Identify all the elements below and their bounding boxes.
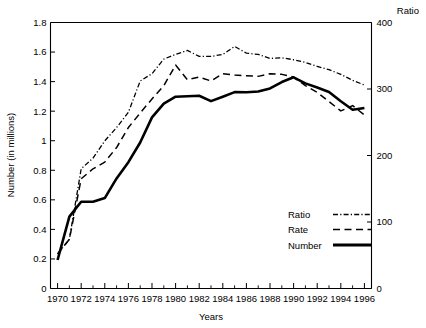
series-line-rate <box>58 65 365 254</box>
y-axis-right-tick-labels: 0100200300400 <box>377 17 393 294</box>
y-axis-right-tick-label: 100 <box>377 216 393 227</box>
legend-label-ratio: Ratio <box>288 209 310 220</box>
y-axis-right-tick-label: 300 <box>377 83 393 94</box>
y-axis-left-ticks <box>51 23 56 289</box>
legend-label-number: Number <box>288 240 322 251</box>
x-axis-tick-label: 1970 <box>47 293 68 304</box>
y-axis-left-tick-label: 0.2 <box>33 253 46 264</box>
x-axis-title: Years <box>199 311 223 322</box>
x-axis-tick-label: 1976 <box>118 293 139 304</box>
x-axis-tick-label: 1996 <box>354 293 375 304</box>
y-axis-right-tick-label: 400 <box>377 17 393 28</box>
x-axis-tick-label: 1980 <box>165 293 186 304</box>
y-axis-right-tick-label: 200 <box>377 150 393 161</box>
data-series-group <box>58 46 365 260</box>
x-axis-tick-label: 1988 <box>259 293 280 304</box>
chart-figure: 00.20.40.60.811.21.41.61.8 0100200300400… <box>0 0 426 328</box>
y-axis-left-tick-label: 0.6 <box>33 194 46 205</box>
y-axis-left-tick-label: 1.4 <box>33 76 46 87</box>
x-axis-tick-label: 1992 <box>307 293 328 304</box>
chart-legend: Ratio Rate Number <box>288 209 372 251</box>
x-axis-tick-label: 1990 <box>283 293 304 304</box>
y-axis-right-ticks <box>367 23 372 289</box>
y-axis-right-title: Ratio <box>397 5 419 16</box>
x-axis-tick-label: 1978 <box>141 293 162 304</box>
x-axis-tick-labels: 1970197219741976197819801982198419861988… <box>47 293 375 304</box>
y-axis-right-tick-label: 0 <box>377 283 382 294</box>
x-axis-tick-label: 1982 <box>189 293 210 304</box>
plot-frame <box>51 23 372 289</box>
series-line-ratio <box>58 46 365 253</box>
x-axis-tick-label: 1994 <box>330 293 351 304</box>
y-axis-left-tick-label: 1.8 <box>33 17 46 28</box>
series-line-number <box>58 77 365 260</box>
x-axis-tick-label: 1972 <box>71 293 92 304</box>
y-axis-left-tick-labels: 00.20.40.60.811.21.41.61.8 <box>33 17 46 294</box>
x-axis-tick-label: 1984 <box>212 293 233 304</box>
x-axis-tick-label: 1974 <box>94 293 115 304</box>
y-axis-left-tick-label: 0.8 <box>33 165 46 176</box>
y-axis-left-title: Number (in millions) <box>5 113 16 197</box>
x-axis-tick-label: 1986 <box>236 293 257 304</box>
legend-label-rate: Rate <box>288 224 308 235</box>
y-axis-left-tick-label: 1 <box>41 135 46 146</box>
y-axis-left-tick-label: 1.2 <box>33 106 46 117</box>
chart-canvas: 00.20.40.60.811.21.41.61.8 0100200300400… <box>0 0 426 328</box>
y-axis-left-tick-label: 0.4 <box>33 224 46 235</box>
y-axis-left-tick-label: 0 <box>41 283 46 294</box>
y-axis-left-tick-label: 1.6 <box>33 46 46 57</box>
